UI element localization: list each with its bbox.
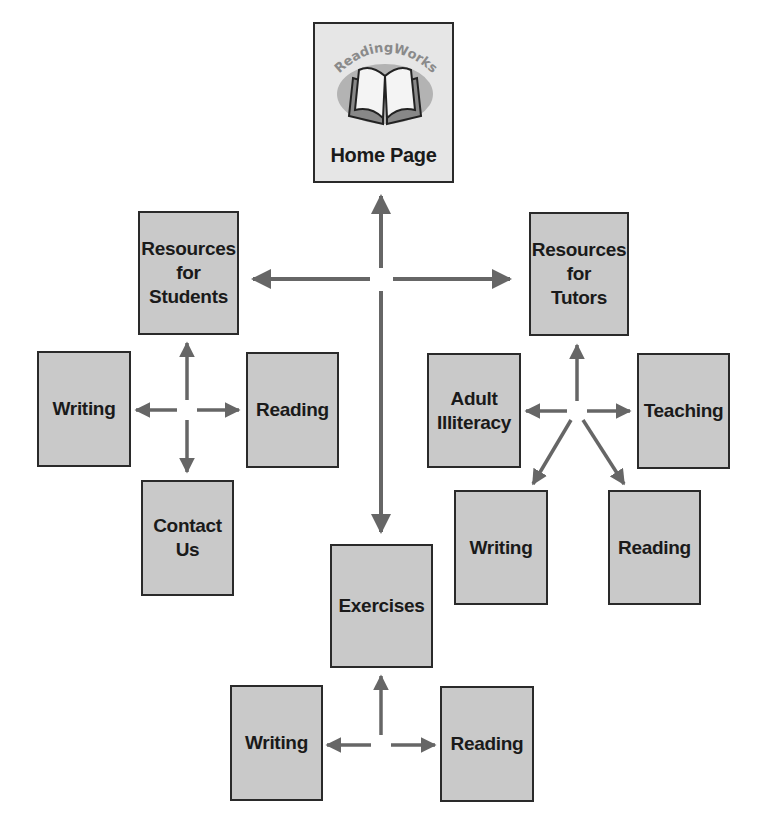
node-label: Teaching [644,399,724,423]
node-teaching[interactable]: Teaching [637,353,730,469]
node-label: Exercises [338,594,424,618]
readingworks-logo: ReadingWorks [323,32,447,132]
node-resources-for-students[interactable]: Resources for Students [138,211,239,335]
node-exercises-writing[interactable]: Writing [230,685,323,801]
node-label: Reading [256,398,329,422]
node-label: Home Page [330,143,436,167]
node-label: Adult Illiteracy [437,387,511,435]
node-exercises-reading[interactable]: Reading [440,686,534,802]
node-label: Reading [618,536,691,560]
node-home-page[interactable]: ReadingWorks Home Page [313,22,454,183]
node-label: Resources for Tutors [532,238,626,310]
node-tutors-reading[interactable]: Reading [608,490,701,605]
node-label: Writing [470,536,533,560]
node-exercises[interactable]: Exercises [330,544,433,668]
node-tutors-writing[interactable]: Writing [454,490,548,605]
node-label: Contact Us [153,514,222,562]
node-contact-us[interactable]: Contact Us [141,480,234,596]
arrow-tutors-reading [583,420,624,484]
node-label: Writing [53,397,116,421]
node-adult-illiteracy[interactable]: Adult Illiteracy [427,353,521,468]
node-label: Writing [245,731,308,755]
node-resources-for-tutors[interactable]: Resources for Tutors [529,212,629,336]
node-students-writing[interactable]: Writing [37,351,131,467]
node-students-reading[interactable]: Reading [246,352,339,468]
node-label: Resources for Students [141,237,235,309]
node-label: Reading [451,732,524,756]
arrow-tutors-writing [533,420,571,484]
